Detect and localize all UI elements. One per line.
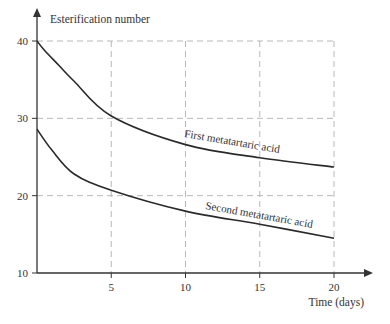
series-curves — [37, 41, 334, 238]
x-tick-label: 20 — [329, 281, 341, 293]
y-tick-label: 20 — [17, 190, 29, 202]
series-label-first: First metatartaric acid — [184, 127, 282, 155]
x-tick-label: 15 — [254, 281, 266, 293]
chart: 102030405101520 Esterification number Ti… — [0, 0, 390, 324]
y-tick-label: 30 — [17, 112, 29, 124]
grid-lines — [37, 41, 334, 273]
y-tick-label: 10 — [17, 267, 29, 279]
x-axis-arrow-icon — [364, 269, 373, 277]
y-tick-label: 40 — [17, 35, 29, 47]
x-tick-label: 5 — [109, 281, 115, 293]
x-axis-title: Time (days) — [309, 296, 365, 309]
y-axis-arrow-icon — [33, 8, 41, 17]
y-axis-title: Esterification number — [50, 13, 150, 25]
tick-labels: 102030405101520 — [17, 35, 340, 293]
x-tick-label: 10 — [180, 281, 192, 293]
